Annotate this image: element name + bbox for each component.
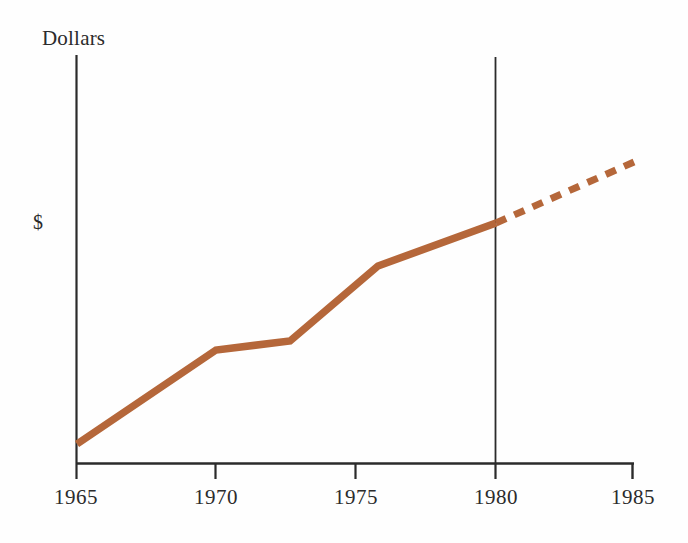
x-tick-label-1975: 1975 [334,485,378,510]
y-axis-title: Dollars [42,26,105,51]
line-chart-figure: Dollars $ 1965 1970 1975 1980 1985 [0,0,688,543]
series-actual-line [77,223,496,444]
x-tick-label-1970: 1970 [194,485,238,510]
series-projected-line [496,162,634,223]
x-axis-ticks [77,463,633,479]
x-tick-label-1980: 1980 [474,485,518,510]
x-tick-label-1965: 1965 [54,485,98,510]
chart-canvas [0,0,688,543]
x-tick-label-1985: 1985 [611,485,655,510]
y-axis-unit-label: $ [33,211,43,234]
